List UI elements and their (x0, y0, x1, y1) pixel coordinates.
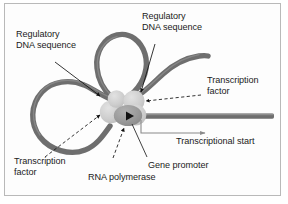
pointer-transcription-factor-right (146, 95, 201, 101)
label-rna-polymerase: RNA polymerase (88, 172, 156, 183)
pointer-rna-polymerase (113, 128, 124, 158)
pointer-regulatory-dna-left (55, 62, 100, 96)
label-regulatory-dna-left: Regulatory DNA sequence (16, 29, 76, 50)
figure-container: Regulatory DNA sequence Regulatory DNA s… (0, 0, 288, 204)
label-transcriptional-start: Transcriptional start (176, 136, 254, 147)
transcription-factor-blob-mid (108, 90, 126, 108)
rna-polymerase-blob (114, 105, 142, 126)
pointer-gene-promoter (132, 124, 147, 157)
dna-downstream-bar (134, 114, 274, 119)
label-gene-promoter: Gene promoter (148, 160, 209, 171)
label-regulatory-dna-right: Regulatory DNA sequence (142, 11, 202, 32)
label-transcription-factor-right: Transcription factor (207, 75, 259, 96)
pointer-transcriptional-start (141, 120, 205, 133)
label-transcription-factor-left: Transcription factor (14, 156, 66, 177)
